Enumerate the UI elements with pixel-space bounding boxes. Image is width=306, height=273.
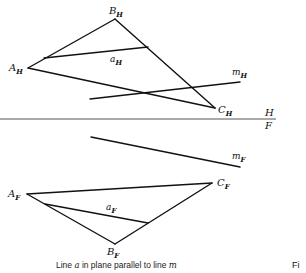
edge-ab-f xyxy=(27,194,115,244)
label-b-h: BH xyxy=(108,5,123,19)
line-m-f xyxy=(91,137,240,167)
horizontal-view: BH AH CH aH mH xyxy=(8,5,248,118)
caption-text-1: Line xyxy=(56,260,74,270)
label-line-a-f: aF xyxy=(106,202,117,215)
label-b-f: BF xyxy=(106,246,120,260)
label-line-a-h: aH xyxy=(110,54,122,67)
edge-ab-h xyxy=(28,19,115,68)
label-line-m-f: mF xyxy=(232,151,247,164)
label-a-h: AH xyxy=(8,62,23,76)
descriptive-geometry-diagram: BH AH CH aH mH H F AF CF BF aF mF xyxy=(0,0,306,273)
figure-reference: Fi xyxy=(292,260,300,270)
caption-var-m: m xyxy=(169,260,177,270)
fold-line-hf: H F xyxy=(0,107,276,131)
edge-bc-f xyxy=(115,183,212,244)
fold-label-f: F xyxy=(264,120,273,131)
fold-label-h: H xyxy=(264,107,274,118)
figure-caption: Line a in plane parallel to line m xyxy=(56,260,177,270)
frontal-view: AF CF BF aF mF xyxy=(7,137,247,260)
line-m-h xyxy=(90,82,240,99)
label-c-h: CH xyxy=(218,104,233,118)
label-line-m-h: mH xyxy=(232,67,248,80)
line-a-h xyxy=(44,47,148,58)
label-a-f: AF xyxy=(7,188,21,202)
edge-ac-f xyxy=(27,183,212,194)
caption-text-2: in plane parallel to line xyxy=(80,260,169,270)
label-c-f: CF xyxy=(217,177,231,191)
